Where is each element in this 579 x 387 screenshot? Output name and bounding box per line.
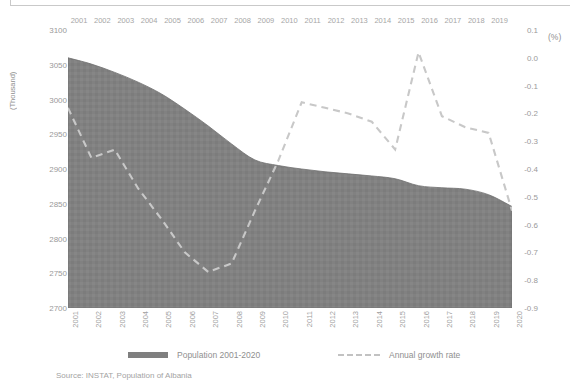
- x-axis-year-label: 2008: [235, 311, 244, 328]
- y-axis-right-tick-label: 0.1: [512, 26, 538, 35]
- x-axis-year-label: 2010: [281, 311, 290, 328]
- top-year-label: 2018: [468, 16, 485, 25]
- source-note: Source: INSTAT, Population of Albania: [56, 371, 192, 380]
- top-year-label: 2014: [374, 16, 391, 25]
- top-year-label: 2002: [94, 16, 111, 25]
- legend-item-population[interactable]: Population 2001-2020: [128, 348, 260, 362]
- x-axis-year-label: 2012: [328, 311, 337, 328]
- x-axis-year-label: 2014: [375, 311, 384, 328]
- top-year-label: 2001: [71, 16, 88, 25]
- top-year-label: 2009: [258, 16, 275, 25]
- y-axis-left-tick-label: 2950: [27, 130, 67, 139]
- top-year-label: 2010: [281, 16, 298, 25]
- top-year-label: 2007: [211, 16, 228, 25]
- y-axis-left-tick-label: 2800: [27, 234, 67, 243]
- x-axis-year-label: 2011: [305, 311, 314, 327]
- header-divider-tick: [10, 0, 11, 6]
- x-axis-year-label: 2016: [422, 311, 431, 328]
- x-axis-year-label: 2006: [188, 311, 197, 328]
- top-year-label: 2006: [187, 16, 204, 25]
- x-axis-year-label: 2020: [515, 311, 524, 328]
- x-axis-year-label: 2017: [445, 311, 454, 328]
- y-axis-right-tick-label: -0.7: [512, 248, 538, 257]
- legend-label-growth-rate: Annual growth rate: [389, 350, 460, 360]
- x-axis-year-label: 2001: [71, 311, 80, 328]
- top-year-label: 2004: [141, 16, 158, 25]
- legend-item-growth-rate[interactable]: Annual growth rate: [338, 348, 460, 362]
- header-divider: [10, 5, 570, 6]
- top-year-label: 2015: [398, 16, 415, 25]
- x-axis-year-label: 2009: [258, 311, 267, 328]
- top-year-labels: 2001200220032004200520062007200820092010…: [0, 16, 579, 28]
- x-axis-year-labels: 2001200220032004200520062007200820092010…: [0, 311, 579, 347]
- chart-legend: Population 2001-2020 Annual growth rate: [0, 348, 579, 364]
- y-axis-right-tick-label: -0.4: [512, 165, 538, 174]
- top-year-label: 2019: [491, 16, 508, 25]
- y-axis-left-tick-label: 2900: [27, 165, 67, 174]
- y-axis-right-tick-label: -0.6: [512, 220, 538, 229]
- y-axis-right-tick-label: -0.1: [512, 81, 538, 90]
- top-year-label: 2005: [164, 16, 181, 25]
- y-axis-left-tick-label: 2850: [27, 199, 67, 208]
- y-axis-right-tick-label: -0.5: [512, 192, 538, 201]
- population-area-series: [68, 58, 512, 308]
- top-year-label: 2017: [445, 16, 462, 25]
- x-axis-year-label: 2004: [141, 311, 150, 328]
- chart-figure: (Thousand) (%) 2001200220032004200520062…: [0, 0, 579, 387]
- x-axis-year-label: 2013: [351, 311, 360, 328]
- y-axis-right-tick-label: -0.8: [512, 276, 538, 285]
- x-axis-year-label: 2002: [94, 311, 103, 328]
- y-axis-right-tick-label: 0.0: [512, 53, 538, 62]
- x-axis-year-label: 2019: [492, 311, 501, 328]
- x-axis-year-label: 2007: [211, 311, 220, 328]
- x-axis-year-label: 2015: [398, 311, 407, 328]
- x-axis-year-label: 2005: [164, 311, 173, 328]
- y-axis-right-title: (%): [548, 32, 561, 42]
- top-year-label: 2012: [328, 16, 345, 25]
- y-axis-right-tick-label: -0.2: [512, 109, 538, 118]
- top-year-label: 2013: [351, 16, 368, 25]
- y-axis-left-tick-label: 3000: [27, 95, 67, 104]
- x-axis-year-label: 2018: [468, 311, 477, 328]
- y-axis-left-tick-label: 3100: [27, 26, 67, 35]
- legend-swatch-dashed-line-icon: [338, 354, 380, 356]
- top-year-label: 2016: [421, 16, 438, 25]
- x-axis-year-label: 2003: [118, 311, 127, 328]
- y-axis-left-tick-label: 2750: [27, 269, 67, 278]
- y-axis-left-tick-label: 3050: [27, 60, 67, 69]
- top-year-label: 2008: [234, 16, 251, 25]
- y-axis-right-tick-label: -0.3: [512, 137, 538, 146]
- plot-area: [68, 30, 512, 308]
- legend-label-population: Population 2001-2020: [177, 350, 260, 360]
- legend-swatch-area-icon: [128, 352, 168, 358]
- top-year-label: 2011: [305, 16, 321, 25]
- top-year-label: 2003: [117, 16, 134, 25]
